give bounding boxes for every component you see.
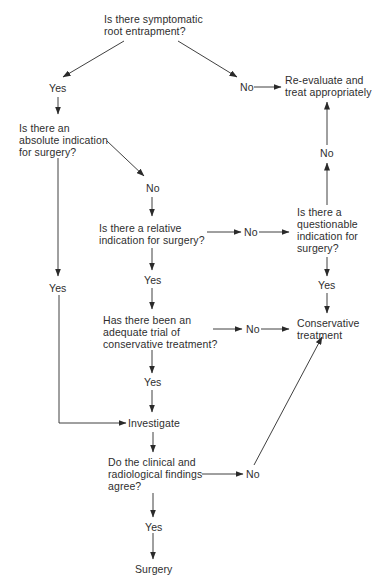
node-line: radiological findings bbox=[108, 468, 202, 480]
node-line: conservative treatment? bbox=[103, 338, 217, 350]
node-line: agree? bbox=[108, 480, 202, 492]
node-investigate: Investigate bbox=[128, 417, 180, 429]
node-line: indication for surgery? bbox=[99, 234, 205, 246]
node-line: surgery? bbox=[297, 242, 358, 254]
node-line: Do the clinical and bbox=[108, 456, 202, 468]
node-surgery: Surgery bbox=[135, 563, 172, 575]
node-line: Re-evaluate and bbox=[285, 74, 372, 86]
node-line: Is there a relative bbox=[99, 222, 205, 234]
label-no-agree: No bbox=[246, 468, 260, 480]
label-yes-root: Yes bbox=[49, 82, 66, 94]
label-no-questionable: No bbox=[320, 147, 334, 159]
node-line: indication for bbox=[297, 230, 358, 242]
node-line: for surgery? bbox=[19, 146, 108, 158]
node-relative-indication: Is there a relative indication for surge… bbox=[99, 222, 205, 246]
label-yes-agree: Yes bbox=[145, 521, 162, 533]
arrow-absolute-no bbox=[107, 141, 144, 176]
node-reevaluate: Re-evaluate and treat appropriately bbox=[285, 74, 372, 98]
node-line: questionable bbox=[297, 218, 358, 230]
node-findings-agree: Do the clinical and radiological finding… bbox=[108, 456, 202, 492]
label-no-trial: No bbox=[246, 323, 260, 335]
label-yes-trial: Yes bbox=[144, 376, 161, 388]
flowchart: Is there symptomatic root entrapment? Ye… bbox=[0, 0, 383, 582]
node-line: Has there been an bbox=[103, 314, 217, 326]
node-absolute-indication: Is there an absolute indication for surg… bbox=[19, 122, 108, 158]
node-line: adequate trial of bbox=[103, 326, 217, 338]
node-adequate-trial: Has there been an adequate trial of cons… bbox=[103, 314, 217, 350]
node-line: Is there an bbox=[19, 122, 108, 134]
node-questionable-indication: Is there a questionable indication for s… bbox=[297, 206, 358, 254]
node-line: treatment bbox=[297, 329, 359, 341]
label-yes-questionable: Yes bbox=[318, 279, 335, 291]
label-yes-relative: Yes bbox=[144, 274, 161, 286]
node-line: root entrapment? bbox=[104, 25, 203, 37]
node-line: Is there a bbox=[297, 206, 358, 218]
arrow-root-yes bbox=[63, 41, 124, 77]
node-line: absolute indication bbox=[19, 134, 108, 146]
label-yes-absolute: Yes bbox=[49, 282, 66, 294]
node-line: Conservative bbox=[297, 317, 359, 329]
node-line: Is there symptomatic bbox=[104, 13, 203, 25]
node-conservative-treatment: Conservative treatment bbox=[297, 317, 359, 341]
label-no-absolute: No bbox=[146, 182, 160, 194]
label-no-relative: No bbox=[244, 226, 258, 238]
node-symptomatic-root-entrapment: Is there symptomatic root entrapment? bbox=[104, 13, 203, 37]
label-no-root: No bbox=[240, 81, 254, 93]
node-line: treat appropriately bbox=[285, 86, 372, 98]
arrow-no5-conservative bbox=[254, 337, 322, 465]
arrow-root-no bbox=[178, 41, 237, 77]
